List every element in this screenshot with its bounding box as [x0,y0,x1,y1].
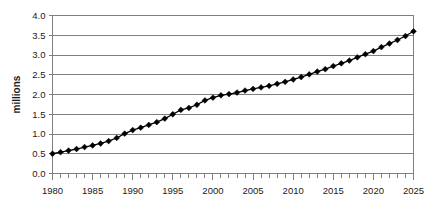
data-point-marker [258,84,264,90]
data-point-marker [395,37,401,43]
data-point-marker [210,95,216,101]
data-point-marker [66,148,72,154]
data-point-marker [178,107,184,113]
y-tick-label: 2.5 [32,69,45,80]
data-point-marker [146,122,152,128]
chart-canvas: 0.00.51.01.52.02.53.03.54.01980198519901… [0,0,433,205]
data-point-marker [266,83,272,89]
data-point-marker [74,146,80,152]
data-point-marker [314,69,320,75]
data-point-marker [154,119,160,125]
data-point-marker [403,33,409,39]
data-point-marker [379,44,385,50]
data-point-marker [122,131,128,137]
data-point-marker [162,116,168,122]
data-point-marker [362,51,368,57]
x-tick-label: 1980 [42,185,63,196]
data-point-marker [98,141,104,147]
y-tick-label: 0.0 [32,168,45,179]
y-tick-label: 2.0 [32,89,45,100]
y-tick-label: 3.5 [32,30,45,41]
data-point-marker [194,102,200,108]
x-tick-label: 2000 [202,185,223,196]
x-tick-label: 1985 [82,185,103,196]
data-point-marker [282,79,288,85]
x-tick-label: 2010 [283,185,304,196]
x-tick-label: 1995 [162,185,183,196]
data-point-marker [202,98,208,104]
data-point-marker [138,125,144,131]
x-tick-label: 2005 [242,185,263,196]
x-tick-label: 2020 [363,185,384,196]
x-tick-label: 2025 [403,185,424,196]
x-tick-label: 1990 [122,185,143,196]
y-tick-label: 3.0 [32,49,45,60]
y-axis-title: millions [11,75,22,113]
data-point-marker [346,58,352,64]
line-chart: 0.00.51.01.52.02.53.03.54.01980198519901… [0,0,433,205]
data-point-marker [130,127,136,133]
data-point-marker [242,88,248,94]
y-tick-label: 1.0 [32,128,45,139]
data-point-marker [274,81,280,87]
data-point-marker [306,71,312,77]
data-point-marker [50,151,56,157]
x-tick-label: 2015 [323,185,344,196]
data-point-marker [106,138,112,144]
data-point-marker [170,111,176,117]
y-tick-label: 4.0 [32,10,45,21]
data-point-marker [387,41,393,47]
data-point-marker [114,135,120,141]
data-point-marker [370,48,376,54]
data-point-marker [82,144,88,150]
data-point-marker [250,86,256,92]
data-point-marker [290,77,296,83]
data-point-marker [411,28,417,34]
data-point-marker [218,92,224,98]
data-point-marker [330,63,336,69]
data-point-marker [338,60,344,66]
y-tick-label: 0.5 [32,148,45,159]
y-tick-label: 1.5 [32,109,45,120]
data-point-marker [226,91,232,97]
data-point-marker [322,66,328,72]
data-point-marker [186,105,192,111]
data-point-marker [90,143,96,149]
data-line [53,31,414,153]
